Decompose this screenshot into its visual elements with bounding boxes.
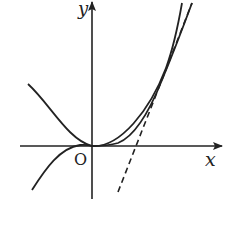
- x-axis-label: x: [205, 150, 216, 169]
- tangent-line-dashed: [118, 3, 192, 192]
- parabola-curve: [28, 3, 182, 146]
- cubic-curve: [32, 3, 192, 190]
- function-graph-figure: y x O: [0, 0, 236, 229]
- origin-label: O: [74, 152, 87, 168]
- y-axis-label: y: [78, 0, 88, 18]
- graph-canvas: [0, 0, 236, 229]
